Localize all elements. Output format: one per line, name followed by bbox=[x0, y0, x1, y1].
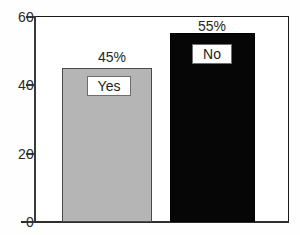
y-tick-label-0: 0 bbox=[0, 215, 34, 229]
bar-chart: 60 40 20 0 45% 55% Yes No bbox=[0, 0, 300, 235]
y-tick-label-20: 20 bbox=[0, 147, 34, 161]
bar-category-label-no: No bbox=[192, 44, 232, 64]
y-axis-line bbox=[34, 16, 36, 223]
bar-value-label-no: 55% bbox=[177, 19, 247, 33]
y-tick-label-60: 60 bbox=[0, 10, 34, 24]
bar-category-label-yes: Yes bbox=[87, 76, 131, 96]
bar-value-label-yes: 45% bbox=[77, 50, 147, 64]
y-tick-label-40: 40 bbox=[0, 78, 34, 92]
